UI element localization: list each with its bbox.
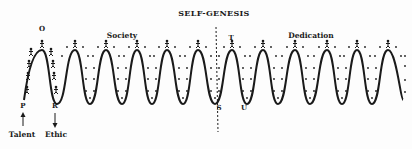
stick-figure-icon [135,40,139,48]
point-label-u: U [241,103,247,112]
stick-figure-icon [27,60,31,68]
diagram-title: SELF-GENESIS [178,8,249,18]
stick-figure-icon [49,48,53,56]
stick-figure-icon [52,72,56,80]
point-label-t: T [228,33,234,42]
point-label-o: O [39,24,45,33]
point-label-p: P [20,101,26,110]
stick-figure-icon [293,40,297,48]
stick-figure-icon [73,40,77,48]
stick-figure-icon [386,40,390,48]
point-label-s: S [216,103,221,112]
section-label-society: Society [107,31,138,40]
stick-figure-icon [261,40,265,48]
bottom-label-ethic: Ethic [45,130,67,139]
section-label-dedication: Dedication [288,31,334,40]
stick-figure-icon [40,40,44,48]
arrow-up-icon [21,112,26,126]
stick-figure-icon [54,86,58,94]
sine-wave-path [24,50,403,104]
arrow-down-icon [53,113,58,128]
stick-figure-icon [196,40,200,48]
stick-figure-icon [29,48,33,56]
stick-figure-icon [51,60,55,68]
self-genesis-diagram: SELF-GENESIS Society Dedication O P R T … [0,0,412,149]
self-genesis-divider-line [216,27,218,132]
stick-figure-icon [104,40,108,48]
wave-diagram-canvas: SELF-GENESIS Society Dedication O P R T … [0,0,412,149]
stick-figure-icon [325,40,329,48]
stick-figure-icon [355,40,359,48]
stick-figure-icon [165,40,169,48]
point-label-r: R [52,101,58,110]
bottom-label-talent: Talent [9,130,36,139]
